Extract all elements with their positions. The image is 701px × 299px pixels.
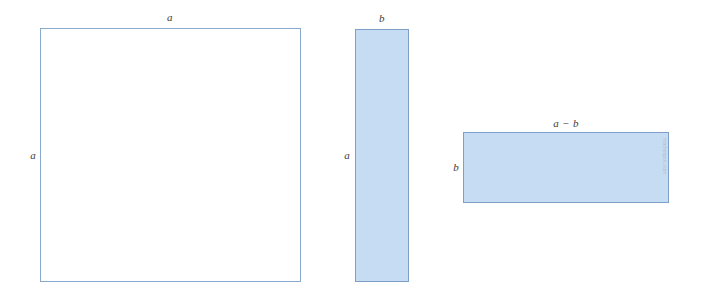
rect-a-by-b-top-label: b bbox=[379, 13, 385, 24]
shape-rect-a-by-b bbox=[355, 29, 409, 282]
square-a-left-label: a bbox=[22, 150, 36, 161]
rect-a-by-b-left-label: a bbox=[336, 150, 350, 161]
shape-rect-a-minus-b-by-b bbox=[463, 132, 669, 203]
square-a-top-label: a bbox=[167, 12, 173, 23]
rect-a-minus-b-top-label: a − b bbox=[553, 118, 578, 129]
rect-a-minus-b-left-label: b bbox=[445, 162, 459, 173]
figure-canvas: a a b a a − b b mathsspot.com bbox=[0, 0, 701, 299]
shape-square-a bbox=[40, 28, 301, 282]
